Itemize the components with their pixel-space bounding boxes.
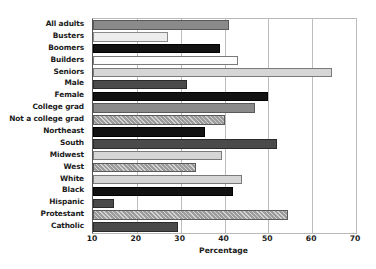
bar bbox=[93, 151, 222, 161]
category-label: South bbox=[60, 139, 84, 146]
plot-area bbox=[92, 18, 357, 234]
value-axis-tick-labels: 10203040506070 bbox=[92, 234, 355, 246]
value-tick-label: 20 bbox=[131, 234, 142, 243]
bar bbox=[93, 222, 178, 232]
bar bbox=[93, 210, 288, 220]
bar bbox=[93, 175, 242, 185]
category-label: Catholic bbox=[51, 222, 84, 229]
bar bbox=[93, 92, 268, 102]
value-tick-label: 40 bbox=[218, 234, 229, 243]
bar bbox=[93, 163, 196, 173]
category-label: Hispanic bbox=[49, 198, 84, 205]
value-tick-label: 60 bbox=[306, 234, 317, 243]
category-label: West bbox=[64, 163, 84, 170]
category-label: Midwest bbox=[50, 151, 84, 158]
gridline bbox=[268, 19, 269, 233]
bar bbox=[93, 139, 277, 149]
value-tick-label: 30 bbox=[174, 234, 185, 243]
bar bbox=[93, 56, 238, 66]
bar bbox=[93, 44, 220, 54]
value-tick-label: 10 bbox=[87, 234, 98, 243]
bar-chart: All adultsBustersBoomersBuildersSeniorsM… bbox=[0, 0, 376, 269]
category-axis-labels: All adultsBustersBoomersBuildersSeniorsM… bbox=[0, 18, 88, 232]
category-label: College grad bbox=[33, 103, 84, 110]
category-label: Male bbox=[65, 79, 85, 86]
category-label: Female bbox=[55, 91, 84, 98]
value-axis-title: Percentage bbox=[92, 246, 355, 255]
bar bbox=[93, 32, 168, 42]
bar bbox=[93, 80, 187, 90]
gridline bbox=[312, 19, 313, 233]
gridline bbox=[225, 19, 226, 233]
bar bbox=[93, 68, 332, 78]
category-label: Boomers bbox=[48, 44, 84, 51]
category-label: Not a college grad bbox=[9, 115, 84, 122]
bar bbox=[93, 103, 255, 113]
bar bbox=[93, 20, 229, 30]
gridline bbox=[356, 19, 357, 233]
category-label: Northeast bbox=[43, 127, 84, 134]
bar bbox=[93, 187, 233, 197]
bar bbox=[93, 115, 225, 125]
category-label: White bbox=[60, 175, 84, 182]
value-tick-label: 50 bbox=[262, 234, 273, 243]
category-label: Protestant bbox=[41, 210, 84, 217]
category-label: Builders bbox=[50, 56, 84, 63]
category-label: All adults bbox=[46, 20, 84, 27]
category-label: Busters bbox=[53, 32, 84, 39]
bar bbox=[93, 127, 205, 137]
category-label: Black bbox=[62, 186, 84, 193]
category-label: Seniors bbox=[53, 68, 84, 75]
bar bbox=[93, 199, 114, 209]
value-tick-label: 70 bbox=[350, 234, 361, 243]
